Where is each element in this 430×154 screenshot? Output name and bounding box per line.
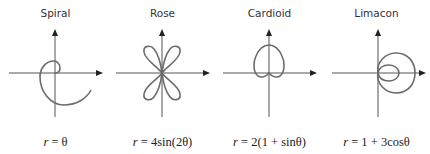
spiral-plot	[2, 0, 109, 154]
panel-cardioid: Cardioid r = 2(1 + sinθ)	[216, 0, 323, 154]
equation: r = 1 + 3cosθ	[323, 135, 430, 150]
panel-spiral: Spiral r = θ	[2, 0, 109, 154]
limacon-plot	[323, 0, 430, 154]
panel-rose: Rose r = 4sin(2θ)	[109, 0, 216, 154]
spiral-curve	[40, 61, 91, 105]
equation: r = θ	[2, 135, 109, 150]
x-axis-arrow-icon	[203, 70, 210, 76]
x-axis-arrow-icon	[310, 70, 317, 76]
cardioid-plot	[216, 0, 323, 154]
x-axis-arrow-icon	[96, 70, 103, 76]
panel-limacon: Limacon r = 1 + 3cosθ	[323, 0, 430, 154]
x-axis-arrow-icon	[419, 70, 426, 76]
equation: r = 4sin(2θ)	[109, 135, 216, 150]
y-axis-arrow-icon	[375, 29, 381, 36]
y-axis-arrow-icon	[159, 29, 165, 36]
y-axis-arrow-icon	[52, 29, 58, 36]
y-axis-arrow-icon	[266, 29, 272, 36]
axes	[9, 33, 98, 117]
axes	[332, 33, 421, 117]
equation: r = 2(1 + sinθ)	[216, 135, 323, 150]
rose-plot	[109, 0, 216, 154]
